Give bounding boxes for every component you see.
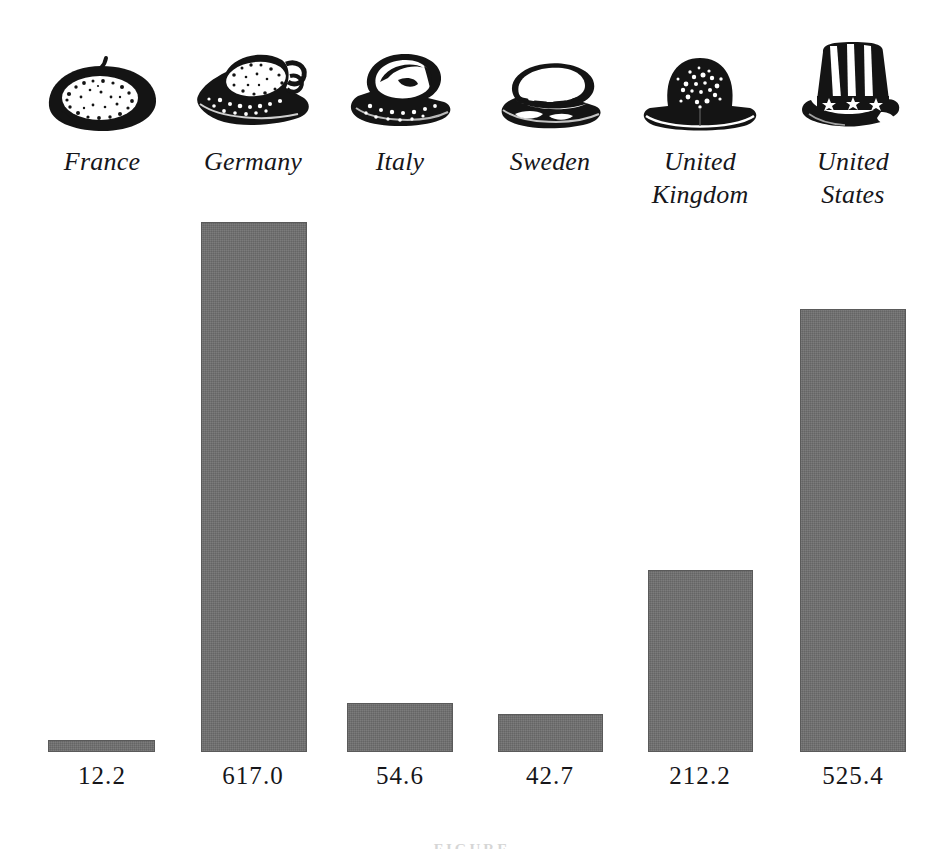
tyrolean-hat-icon [183,28,323,138]
beret-icon [32,28,172,138]
bar-sweden [498,714,603,752]
bar-germany [201,222,307,752]
bar-united-kingdom [648,570,753,752]
value-label-united-states: 525.4 [763,762,943,790]
fedora-icon [330,28,470,138]
country-label-sweden: Sweden [466,145,634,178]
figure-caption: FIGURE [0,838,944,849]
country-label-united-kingdom: United Kingdom [616,145,784,211]
bar-france [48,740,155,752]
country-label-united-states: United States [769,145,937,211]
uncle-sam-top-hat-icon [783,28,923,138]
bar-united-states [800,309,906,752]
bowler-hat-icon [630,28,770,138]
bar-italy [347,703,453,752]
country-label-italy: Italy [316,145,484,178]
bar-chart-figure: France 12.2 [0,0,944,849]
country-label-germany: Germany [169,145,337,178]
flat-cap-icon [480,28,620,138]
chart-column-france: France 12.2 [32,0,172,849]
country-label-france: France [18,145,186,178]
